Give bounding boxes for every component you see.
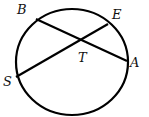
label-a: A [130,56,139,69]
circle-chords-figure [0,0,149,117]
label-e: E [112,8,122,21]
label-s: S [3,75,12,88]
label-b: B [17,3,27,16]
diagram: B E T A S [0,0,149,117]
label-t: T [78,51,87,64]
circle [16,9,128,115]
